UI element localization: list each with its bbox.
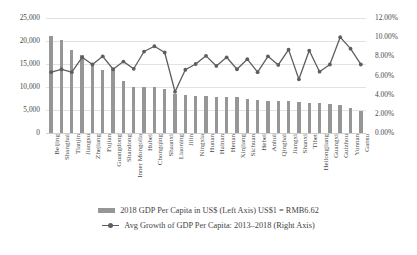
growth-line-svg — [46, 18, 366, 133]
legend-label-bar-series: 2018 GDP Per Capita in US$ (Left Axis) U… — [120, 206, 319, 215]
line-marker — [338, 35, 342, 39]
y-axis-right: 0.00%2.00%4.00%6.00%8.00%10.00%12.00% — [370, 18, 417, 133]
line-marker — [204, 54, 208, 58]
x-axis-tick-label: Jiangxi — [292, 134, 299, 154]
x-axis-tick-label: Shaanxi — [168, 134, 175, 157]
legend-item-bar-series: 2018 GDP Per Capita in US$ (Left Axis) U… — [0, 203, 417, 218]
y-axis-right-tick: 10.00% — [375, 33, 398, 41]
x-axis-tick-label: Sichuan — [250, 134, 257, 157]
x-axis-tick-label: Ningxia — [199, 134, 206, 157]
line-marker — [256, 70, 260, 74]
x-axis-tick-label: Jiangsu — [85, 134, 92, 155]
x-axis-tick-label: Anhui — [271, 134, 278, 152]
line-marker — [49, 70, 53, 74]
y-axis-left-tick: 10,000 — [20, 83, 40, 91]
y-axis-right-tick: 4.00% — [375, 91, 394, 99]
plot-area — [46, 18, 366, 133]
x-axis-tick-label: Liaoning — [178, 134, 185, 159]
x-axis-tick-label: Tibet — [312, 134, 319, 149]
line-marker — [132, 67, 136, 71]
line-marker — [318, 70, 322, 74]
y-axis-left-tick: 0 — [36, 129, 40, 137]
x-axis-tick-label: Shanxi — [302, 134, 309, 153]
line-marker — [245, 57, 249, 61]
x-axis-tick-label: Gansu — [364, 134, 371, 152]
bar-series-swatch-icon — [98, 208, 115, 213]
y-axis-left-tick: 5,000 — [23, 106, 40, 114]
line-marker — [173, 90, 177, 94]
x-axis-labels: BeijingShanghaiTianjinJiangsuZhejiangFuj… — [46, 134, 366, 196]
line-marker — [297, 77, 301, 81]
y-axis-right-tick: 8.00% — [375, 52, 394, 60]
line-marker — [194, 62, 198, 66]
x-axis-tick-label: Hebei — [261, 134, 268, 151]
x-axis-tick-label: Qinghai — [281, 134, 288, 157]
line-marker — [266, 54, 270, 58]
line-marker — [287, 48, 291, 52]
x-axis-tick-label: Jilin — [188, 134, 195, 146]
x-axis-tick-label: Hainan — [219, 134, 226, 154]
x-axis-tick-label: Yunnan — [354, 134, 361, 155]
y-axis-left: 05,00010,00015,00020,00025,000 — [0, 18, 44, 133]
line-marker — [307, 49, 311, 53]
line-series-layer — [46, 18, 366, 133]
line-marker — [214, 64, 218, 68]
y-axis-left-tick: 15,000 — [20, 60, 40, 68]
x-axis-tick-label: Fujian — [106, 134, 113, 152]
growth-line-path — [51, 37, 361, 92]
x-axis-tick-label: Guizhou — [343, 134, 350, 158]
x-axis-tick-label: Hunan — [209, 134, 216, 153]
x-axis-tick-label: Zhejiang — [95, 134, 102, 159]
gdp-per-capita-combo-chart: 05,00010,00015,00020,00025,000 0.00%2.00… — [0, 0, 417, 255]
x-axis-tick-label: Guangdong — [116, 134, 123, 167]
x-axis-tick-label: Hubei — [147, 134, 154, 151]
y-axis-right-tick: 2.00% — [375, 110, 394, 118]
line-marker — [91, 63, 95, 67]
y-axis-right-tick: 12.00% — [375, 14, 398, 22]
y-axis-left-tick: 20,000 — [20, 37, 40, 45]
line-marker — [359, 63, 363, 67]
line-marker — [276, 63, 280, 67]
line-marker — [101, 54, 105, 58]
legend-item-line-series: Avg Growth of GDP Per Capita: 2013–2018 … — [0, 218, 417, 233]
chart-legend: 2018 GDP Per Capita in US$ (Left Axis) U… — [0, 203, 417, 233]
line-marker — [225, 55, 229, 59]
legend-label-line-series: Avg Growth of GDP Per Capita: 2013–2018 … — [124, 221, 314, 230]
x-axis-tick-label: Xinjiang — [240, 134, 247, 159]
line-marker — [80, 55, 84, 59]
line-marker — [163, 51, 167, 55]
y-axis-left-tick: 25,000 — [20, 14, 40, 22]
y-axis-right-tick: 0.00% — [375, 129, 394, 137]
y-axis-right-tick: 6.00% — [375, 72, 394, 80]
x-axis-tick-label: Heilongjiang — [323, 134, 330, 171]
line-marker — [328, 63, 332, 67]
x-axis-tick-label: Henan — [230, 134, 237, 152]
line-marker — [183, 68, 187, 72]
x-axis-tick-label: Beijing — [54, 134, 61, 155]
x-axis-tick-label: Guangxi — [333, 134, 340, 158]
line-marker — [111, 67, 115, 71]
line-series-marker-icon — [102, 222, 119, 229]
line-marker — [70, 70, 74, 74]
x-axis-tick-label: Inner Mongolia — [137, 134, 144, 178]
line-marker — [122, 60, 126, 64]
x-axis-tick-label: Chongqing — [157, 134, 164, 165]
line-marker — [60, 67, 64, 71]
x-axis-tick-label: Shandong — [126, 134, 133, 162]
x-axis-tick-label: Shanghai — [64, 134, 71, 160]
x-axis-tick-label: Tianjin — [75, 134, 82, 154]
line-marker — [349, 47, 353, 51]
line-marker — [235, 67, 239, 71]
line-marker — [152, 44, 156, 48]
line-marker — [142, 50, 146, 54]
